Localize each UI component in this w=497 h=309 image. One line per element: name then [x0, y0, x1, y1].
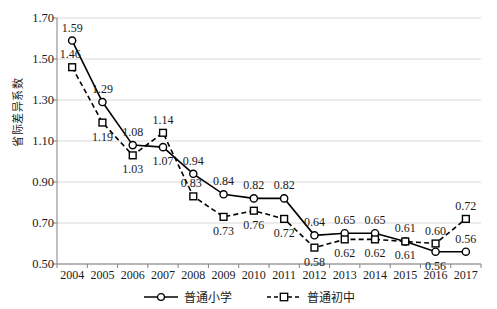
data-label: 1.19 [92, 131, 113, 143]
data-label: 0.58 [304, 256, 325, 268]
data-point-marker [402, 238, 409, 245]
data-label: 1.07 [153, 155, 174, 167]
chart-container: 省际差异系数 0.500.700.901.101.301.501.70 2004… [0, 0, 497, 309]
data-point-marker [69, 37, 76, 44]
data-point-marker [372, 236, 379, 243]
legend-label-0: 普通小学 [184, 288, 232, 306]
data-point-marker [281, 195, 288, 202]
data-point-marker [281, 216, 288, 223]
data-label: 0.76 [243, 219, 264, 231]
data-point-marker [220, 191, 227, 198]
data-label: 0.82 [274, 179, 295, 191]
data-point-marker [462, 248, 469, 255]
y-tick-label: 1.70 [20, 12, 54, 24]
data-label: 0.72 [274, 227, 295, 239]
data-label: 0.94 [183, 155, 204, 167]
legend-item-0[interactable]: 普通小学 [143, 288, 232, 306]
data-point-marker [462, 216, 469, 223]
data-point-marker [99, 119, 106, 126]
data-point-marker [220, 213, 227, 220]
data-label: 0.65 [334, 214, 355, 226]
data-point-marker [250, 195, 257, 202]
legend-key-dashed-square [266, 291, 302, 303]
chart-legend: 普通小学 普通初中 [0, 288, 497, 306]
data-label: 0.65 [365, 214, 386, 226]
data-point-marker [432, 240, 439, 247]
y-tick-label: 0.50 [20, 258, 54, 270]
data-point-marker [159, 144, 166, 151]
data-label: 1.14 [153, 114, 174, 126]
data-point-marker [311, 232, 318, 239]
data-label: 1.46 [60, 48, 81, 60]
data-label: 1.29 [92, 83, 113, 95]
legend-item-1[interactable]: 普通初中 [266, 288, 355, 306]
data-point-marker [311, 244, 318, 251]
data-point-marker [250, 207, 257, 214]
y-axis-tick-labels: 0.500.700.901.101.301.501.70 [18, 0, 54, 309]
legend-key-solid-circle [143, 291, 179, 303]
legend-label-1: 普通初中 [307, 288, 355, 306]
y-tick-label: 0.90 [20, 176, 54, 188]
y-tick-label: 0.70 [20, 217, 54, 229]
gridlines [57, 18, 481, 264]
data-point-marker [190, 193, 197, 200]
x-tick-label: 2017 [446, 268, 486, 283]
data-label: 0.73 [213, 225, 234, 237]
data-label: 0.60 [425, 225, 446, 237]
data-label: 0.62 [365, 247, 386, 259]
data-point-marker [341, 236, 348, 243]
data-point-marker [69, 64, 76, 71]
y-tick-label: 1.30 [20, 94, 54, 106]
data-point-marker [129, 152, 136, 159]
data-label: 0.61 [395, 222, 416, 234]
data-label: 0.56 [455, 233, 476, 245]
data-label: 0.84 [213, 175, 234, 187]
y-tick-label: 1.10 [20, 135, 54, 147]
data-label: 1.03 [122, 163, 143, 175]
data-label: 0.82 [243, 179, 264, 191]
data-label: 1.59 [62, 22, 83, 34]
data-label: 0.61 [395, 249, 416, 261]
data-point-marker [99, 98, 106, 105]
data-point-marker [432, 248, 439, 255]
data-label: 0.56 [425, 260, 446, 272]
data-label: 0.62 [334, 247, 355, 259]
data-label: 0.72 [455, 200, 476, 212]
data-point-marker [160, 129, 167, 136]
data-label: 0.83 [181, 177, 202, 189]
data-label: 0.64 [304, 216, 325, 228]
data-point-marker [129, 142, 136, 149]
data-label: 1.08 [122, 126, 143, 138]
y-tick-label: 1.50 [20, 53, 54, 65]
